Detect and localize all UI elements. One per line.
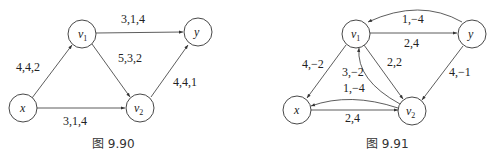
figure-caption-9-91: 图 9.91 xyxy=(366,137,409,151)
svg-text:x: x xyxy=(19,101,26,115)
edge-label-v1-v2: 2,2 xyxy=(387,55,402,69)
edge-v2-x xyxy=(311,99,398,108)
edge-v1-y xyxy=(96,32,183,33)
edge-v1-x xyxy=(307,45,346,98)
edge-label-v2-v1: 3,−2 xyxy=(342,65,364,79)
edge-label-x-v2: 3,1,4 xyxy=(63,114,87,128)
node-v2: v2 xyxy=(126,94,154,122)
edge-label-x-v1: 4,4,2 xyxy=(16,60,40,74)
node-y: y xyxy=(184,18,212,46)
edge-label-v1-y: 2,4 xyxy=(404,36,419,50)
svg-text:y: y xyxy=(193,25,200,39)
node-v1: v1 xyxy=(68,20,96,48)
edge-v1-v2 xyxy=(364,45,403,99)
edge-label-v1-y: 3,1,4 xyxy=(121,12,145,26)
edge-label-y-v1: 1,−4 xyxy=(402,12,424,26)
diagram-canvas: 4,4,2 3,1,4 5,3,2 4,4,1 3,1,4 v1 y x v2 … xyxy=(0,0,488,157)
edge-label-y-v2: 4,−1 xyxy=(449,65,471,79)
svg-text:x: x xyxy=(293,103,300,117)
edge-v2-y xyxy=(151,45,188,97)
edge-label-v2-y: 4,4,1 xyxy=(173,75,197,89)
figure-9-91: 1,−4 2,4 4,−2 3,−2 2,2 4,−1 1,−4 2,4 v1 … xyxy=(283,10,486,151)
edge-label-v2-x: 1,−4 xyxy=(343,81,365,95)
node-v1: v1 xyxy=(342,20,370,48)
node-x: x xyxy=(9,94,37,122)
edge-label-v1-v2: 5,3,2 xyxy=(118,51,142,65)
svg-text:y: y xyxy=(467,27,474,41)
edge-label-x-v2: 2,4 xyxy=(345,111,360,125)
figure-caption-9-90: 图 9.90 xyxy=(92,137,135,151)
node-v2: v2 xyxy=(398,97,426,125)
node-x: x xyxy=(283,96,311,124)
figure-9-90: 4,4,2 3,1,4 5,3,2 4,4,1 3,1,4 v1 y x v2 … xyxy=(9,12,212,151)
edge-label-v1-x: 4,−2 xyxy=(302,57,324,71)
node-y: y xyxy=(458,20,486,48)
